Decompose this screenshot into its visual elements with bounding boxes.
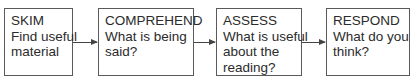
step-title: COMPREHEND <box>105 13 193 29</box>
step-text: material <box>11 44 72 60</box>
step-text: reading? <box>223 60 301 76</box>
step-skim: SKIM Find useful material <box>4 8 73 76</box>
step-text: What is useful <box>223 29 301 45</box>
step-title: ASSESS <box>223 13 301 29</box>
step-text: about the <box>223 44 301 60</box>
step-text: said? <box>105 44 193 60</box>
step-text: What is being <box>105 29 193 45</box>
step-respond: RESPOND What do you think? <box>326 8 410 76</box>
step-text: What do you <box>333 29 409 45</box>
step-text: Find useful <box>11 29 72 45</box>
arrow-right-icon <box>194 42 215 43</box>
arrow-right-icon <box>302 42 325 43</box>
step-title: RESPOND <box>333 13 409 29</box>
arrow-right-icon <box>73 42 97 43</box>
step-text: think? <box>333 44 409 60</box>
step-comprehend: COMPREHEND What is being said? <box>98 8 194 76</box>
step-title: SKIM <box>11 13 72 29</box>
step-assess: ASSESS What is useful about the reading? <box>216 8 302 76</box>
